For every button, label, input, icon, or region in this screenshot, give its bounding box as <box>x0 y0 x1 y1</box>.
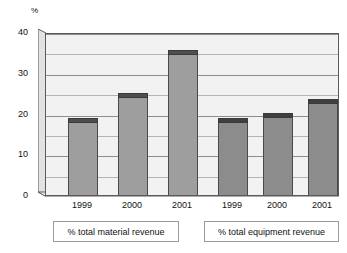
group-label-equipment-text: % total equipment revenue <box>218 227 325 237</box>
bar-top-cap <box>218 118 248 123</box>
group-label-equipment: % total equipment revenue <box>204 221 339 242</box>
y-axis-tick-30: 30 <box>8 69 28 78</box>
bar-top-cap <box>118 93 148 98</box>
x-axis-tick-material-1999: 1999 <box>62 200 102 210</box>
bar-top-cap <box>168 50 198 55</box>
y-axis-tick-10: 10 <box>8 150 28 159</box>
bar-body <box>263 117 293 195</box>
bar-top-cap <box>263 113 293 118</box>
plot-area <box>38 29 340 196</box>
bar-top-cap <box>68 118 98 123</box>
x-axis-tick-material-2000: 2000 <box>112 200 152 210</box>
bar-body <box>118 97 148 195</box>
bar-chart: % 40 30 20 10 0 <box>0 0 347 253</box>
x-axis-tick-equipment-2001: 2001 <box>302 200 342 210</box>
bar-equipment-1999 <box>218 118 248 195</box>
bar-top-cap <box>308 99 338 104</box>
x-axis-tick-equipment-1999: 1999 <box>212 200 252 210</box>
bar-body <box>218 122 248 195</box>
y-axis-tick-40: 40 <box>8 28 28 37</box>
bar-material-2000 <box>118 93 148 195</box>
bar-body <box>168 54 198 195</box>
y-axis-unit-label: % <box>31 6 38 15</box>
x-axis-tick-material-2001: 2001 <box>162 200 202 210</box>
bar-equipment-2001 <box>308 99 338 195</box>
y-axis-tick-20: 20 <box>8 110 28 119</box>
y-axis-tick-0: 0 <box>8 191 28 200</box>
x-axis-tick-equipment-2000: 2000 <box>257 200 297 210</box>
bar-equipment-2000 <box>263 113 293 195</box>
bar-body <box>308 103 338 195</box>
group-label-material-text: % total material revenue <box>67 227 164 237</box>
plot-face <box>45 33 339 196</box>
gridline-40 <box>46 34 338 35</box>
group-label-material: % total material revenue <box>53 221 179 242</box>
bar-material-2001 <box>168 50 198 195</box>
bar-body <box>68 122 98 195</box>
bar-material-1999 <box>68 118 98 195</box>
